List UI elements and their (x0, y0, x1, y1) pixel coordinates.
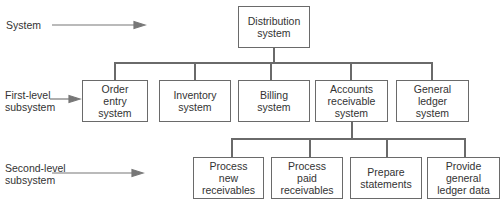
connector-inventory (194, 62, 196, 80)
node-label: General ledger system (414, 83, 451, 119)
node-billing-system: Billing system (238, 80, 310, 122)
node-label: Provide general ledger data (437, 160, 490, 196)
node-label: Accounts receivable system (328, 83, 376, 119)
arrow-head-icon (132, 170, 143, 177)
node-label: Prepare statements (360, 166, 411, 190)
arrow-head-icon (134, 22, 145, 29)
node-prepare-statements: Prepare statements (350, 157, 422, 199)
connector-paid (309, 138, 311, 157)
node-label: Order entry system (98, 83, 131, 119)
connector-billing (270, 62, 272, 80)
connector-statements (386, 138, 388, 157)
node-label: Inventory system (173, 89, 216, 113)
node-general-ledger-system: General ledger system (396, 80, 469, 122)
node-provide-general-ledger-data: Provide general ledger data (427, 157, 500, 199)
connector-gldata (464, 138, 466, 157)
node-accounts-receivable-system: Accounts receivable system (315, 80, 388, 122)
node-label: Billing system (257, 89, 290, 113)
node-process-paid-receivables: Process paid receivables (271, 157, 343, 199)
node-process-new-receivables: Process new receivables (193, 157, 264, 199)
node-order-entry-system: Order entry system (82, 80, 148, 122)
connector-gl (431, 62, 433, 80)
connector-new (231, 138, 233, 157)
node-label: Process paid receivables (280, 160, 333, 196)
node-distribution-system: Distribution system (238, 6, 310, 48)
arrow-head-icon (69, 96, 80, 103)
connector-first-bus (114, 62, 432, 64)
node-label: Distribution system (248, 15, 301, 39)
connector-ar (350, 62, 352, 80)
connector-order (114, 62, 116, 80)
node-inventory-system: Inventory system (159, 80, 231, 122)
connector-root-stem (273, 48, 275, 63)
node-label: Process new receivables (202, 160, 255, 196)
connector-second-bus (231, 138, 466, 140)
